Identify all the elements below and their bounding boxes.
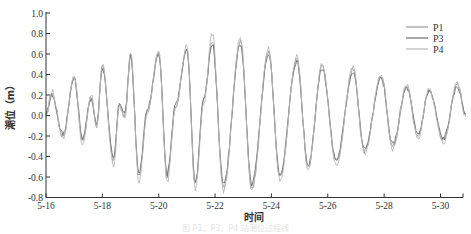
x-tick-label: 5-28 <box>375 201 393 211</box>
y-tick-label: 0.8 <box>31 29 43 39</box>
y-tick-label: -0.4 <box>28 152 43 162</box>
y-tick-label: 0.4 <box>31 70 43 80</box>
y-tick-label: 0.2 <box>31 91 43 101</box>
x-tick-label: 5-30 <box>432 201 450 211</box>
y-tick-label: 0.6 <box>31 50 43 60</box>
legend-label-p3: P3 <box>433 33 444 44</box>
y-axis-title: 潮位（m） <box>4 80 16 130</box>
y-tick-label: -0.6 <box>28 173 43 183</box>
x-tick-label: 5-24 <box>263 201 281 211</box>
series-line-p4 <box>46 34 466 194</box>
x-ticks: 5-165-185-205-225-245-265-285-30 <box>37 194 463 211</box>
legend-label-p4: P4 <box>433 44 444 55</box>
legend-label-p1: P1 <box>433 22 444 33</box>
plot-lines <box>46 34 466 194</box>
x-tick-label: 5-26 <box>319 201 337 211</box>
x-tick-label: 5-20 <box>150 201 168 211</box>
figure-caption: 图 P1、P3、P4 站潮位过程线 <box>0 222 471 233</box>
tide-level-chart: -0.8-0.6-0.4-0.20.00.20.40.60.81.0 5-165… <box>0 0 471 234</box>
x-tick-label: 5-22 <box>206 201 224 211</box>
series-line-p3 <box>46 45 466 186</box>
axes <box>46 12 463 198</box>
y-tick-label: -0.2 <box>28 132 43 142</box>
legend: P1P3P4 <box>406 22 444 55</box>
x-tick-label: 5-18 <box>94 201 112 211</box>
y-tick-label: 0.0 <box>31 111 43 121</box>
y-ticks: -0.8-0.6-0.4-0.20.00.20.40.60.81.0 <box>28 9 50 204</box>
y-tick-label: 1.0 <box>31 9 43 19</box>
x-tick-label: 5-16 <box>37 201 55 211</box>
